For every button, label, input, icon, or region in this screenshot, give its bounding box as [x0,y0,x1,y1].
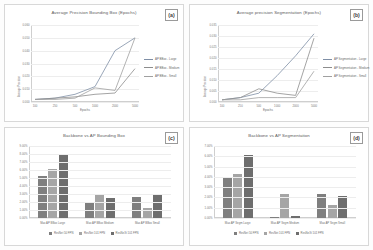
x-axis-title: Epochs [31,108,139,112]
y-axis-tick-label: 1.00% [20,208,28,212]
gridline [214,177,356,178]
figure-container: Average Precision Bounding Box (Epochs) … [0,0,373,250]
panel-c-title: Backbone vs AP Bounding Box [5,133,183,138]
legend-item[interactable]: ResNeXt 101 FPN [111,231,139,235]
gridline [29,218,171,219]
legend-item[interactable]: AP Segmentation - Small [323,74,369,78]
legend-item-label: ResNet 101 FPN [269,231,290,235]
y-axis-tick-label: 0.00% [205,216,213,220]
legend-item[interactable]: ResNet 50 FPN [234,231,258,235]
legend-item-label: ResNeXt 101 FPN [301,231,324,235]
legend-item[interactable]: ResNet 101 FPN [264,231,290,235]
gridline [214,187,356,188]
legend-item-label: AP BBox - Small [155,74,176,78]
y-axis-tick-label: 3.00% [20,192,28,196]
panel-a-tag: (a) [165,9,178,21]
bar-group [29,146,76,218]
y-axis-tick-label: 7.00% [20,160,28,164]
x-axis-tick-label: 250 [53,104,58,108]
gridline [214,156,356,157]
legend-color-swatch [296,232,299,235]
panel-d-backbone-vs-ap-segmentation: Backbone vs AP Segmentation (d) 0.00%1.0… [189,127,369,246]
gridline [214,197,356,198]
legend-item-label: ResNet 50 FPN [239,231,259,235]
y-axis-tick-label: 6.00% [205,154,213,158]
panel-b-tag: (b) [350,9,363,21]
y-axis-tick-label: 9.00% [20,144,28,148]
y-axis-tick-label: 0.020 [210,56,217,60]
legend-item-label: ResNet 101 FPN [84,231,105,235]
legend-color-swatch [79,232,82,235]
panel-c-tag: (c) [165,132,178,144]
panel-c-backbone-vs-ap-bounding-box: Backbone vs AP Bounding Box (c) 0.00%1.0… [4,127,184,246]
bars-layer [29,146,171,218]
line-series [35,69,135,100]
x-axis-tick-label: 5000 [311,104,317,108]
y-axis-tick-label: 0.035 [210,23,217,27]
legend-item[interactable]: AP BBox - Medium [144,66,179,70]
legend-color-swatch [264,232,267,235]
legend-item-label: AP BBox - Medium [155,66,179,70]
panel-d-title: Backbone vs AP Segmentation [190,133,368,138]
gridline [29,194,171,195]
gridline [31,102,139,103]
y-axis-tick-label: 6.00% [20,168,28,172]
category-label: Max AP Segm Medium [271,221,299,225]
panel-d-legend: ResNet 50 FPNResNet 101 FPNResNeXt 101 F… [190,231,368,235]
gridline [214,218,356,219]
bar[interactable] [38,176,47,218]
legend-item[interactable]: AP Segmentation - Large [323,57,369,61]
y-axis-tick-label: 0.00% [20,216,28,220]
y-axis-tick-label: 3.00% [205,185,213,189]
bar[interactable] [132,197,141,218]
legend-item-label: AP Segmentation - Large [334,57,366,61]
legend-line-swatch [144,67,153,68]
legend-line-swatch [144,76,153,77]
y-axis-tick-label: 0.025 [210,45,217,49]
panel-a-plot-area: Epochs 0.0000.0100.0200.0300.0400.0500.0… [31,25,139,102]
legend-item-label: ResNet 50 FPN [54,231,74,235]
y-axis-tick-label: 4.00% [20,184,28,188]
bar-group [76,146,123,218]
bar[interactable] [328,205,337,218]
legend-item[interactable]: ResNeXt 101 FPN [296,231,324,235]
x-axis-tick-label: 2000 [112,104,118,108]
bar[interactable] [106,198,115,218]
legend-item[interactable]: AP BBox - Small [144,74,179,78]
legend-item[interactable]: ResNet 101 FPN [79,231,105,235]
x-axis-tick-label: 2000 [292,104,298,108]
x-axis-tick-label: 100 [33,104,38,108]
legend-item[interactable]: AP Segmentation - Medium [323,66,369,70]
gridline [214,146,356,147]
y-axis-tick-label: 4.00% [205,175,213,179]
legend-item-label: AP Segmentation - Small [334,74,366,78]
panel-d-tag: (d) [350,132,363,144]
bar[interactable] [153,194,162,218]
category-label: Max AP Segm Small [320,221,345,225]
category-label: Max AP BBox Small [135,221,160,225]
y-axis-tick-label: 5.00% [205,165,213,169]
gridline [29,162,171,163]
legend-item-label: AP Segmentation - Medium [334,66,369,70]
line-series-layer [218,25,318,102]
y-axis-tick-label: 0.030 [210,34,217,38]
legend-item-label: ResNeXt 101 FPN [116,231,139,235]
x-axis-tick-label: 250 [238,104,243,108]
gridline [29,202,171,203]
panel-b-plot-area: Epochs 0.0000.0050.0100.0150.0200.0250.0… [218,25,318,102]
y-axis-tick-label: 7.00% [205,144,213,148]
y-axis-tick-label: 2.00% [20,200,28,204]
bar[interactable] [233,174,242,218]
y-axis-tick-label: 0.010 [210,78,217,82]
x-axis-tick-label: 1000 [274,104,280,108]
y-axis-tick-label: 0.005 [210,89,217,93]
legend-item[interactable]: AP BBox - Large [144,57,179,61]
y-axis-tick-label: 2.00% [205,195,213,199]
legend-line-swatch [144,59,153,60]
y-axis-tick-label: 0.020 [23,74,30,78]
legend-item[interactable]: ResNet 50 FPN [49,231,73,235]
bar[interactable] [95,195,104,218]
x-axis-tick-label: 1000 [92,104,98,108]
y-axis-tick-label: 5.00% [20,176,28,180]
y-axis-tick-label: 8.00% [20,152,28,156]
